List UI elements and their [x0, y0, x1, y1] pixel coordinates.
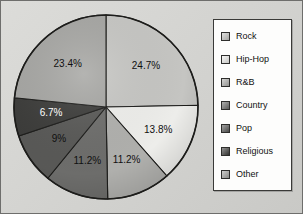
legend-swatch-icon	[221, 101, 230, 110]
pie-slice-value-label: 11.2%	[74, 155, 102, 166]
legend-swatch-icon	[221, 147, 230, 156]
legend-item[interactable]: Religious	[214, 140, 291, 163]
legend-item[interactable]: R&B	[214, 71, 291, 94]
pie-chart-svg: 24.7%13.8%11.2%11.2%9%6.7%23.4%	[11, 12, 201, 202]
legend-swatch-icon	[221, 170, 230, 179]
pie-slice-value-label: 13.8%	[144, 124, 172, 135]
legend-label: Religious	[236, 147, 273, 156]
legend-item[interactable]: Country	[214, 94, 291, 117]
legend-item[interactable]: Rock	[214, 25, 291, 48]
pie-chart: 24.7%13.8%11.2%11.2%9%6.7%23.4%	[11, 12, 201, 202]
legend-item[interactable]: Other	[214, 163, 291, 186]
pie-slice-value-label: 6.7%	[40, 107, 63, 118]
legend-label: Country	[236, 101, 268, 110]
pie-slice-value-label: 24.7%	[132, 60, 160, 71]
legend-label: Rock	[236, 32, 257, 41]
legend-swatch-icon	[221, 124, 230, 133]
legend: RockHip-HopR&BCountryPopReligiousOther	[213, 19, 292, 191]
legend-swatch-icon	[221, 78, 230, 87]
figure-frame: 24.7%13.8%11.2%11.2%9%6.7%23.4% RockHip-…	[0, 0, 303, 214]
legend-swatch-icon	[221, 32, 230, 41]
legend-label: Pop	[236, 124, 252, 133]
legend-item[interactable]: Hip-Hop	[214, 48, 291, 71]
legend-label: Hip-Hop	[236, 55, 269, 64]
legend-label: R&B	[236, 78, 255, 87]
legend-swatch-icon	[221, 55, 230, 64]
legend-item[interactable]: Pop	[214, 117, 291, 140]
pie-slice-value-label: 11.2%	[113, 154, 141, 165]
pie-slice-value-label: 9%	[52, 133, 67, 144]
pie-slice-value-label: 23.4%	[54, 58, 82, 69]
legend-label: Other	[236, 170, 259, 179]
